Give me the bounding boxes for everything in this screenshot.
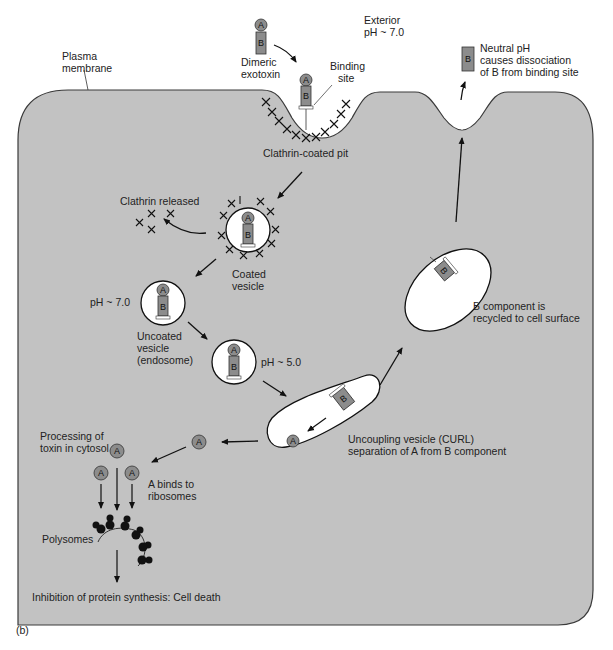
uncoated-vesicle: A B [141, 281, 185, 325]
svg-text:B: B [231, 362, 237, 372]
clathrin-released-label: Clathrin released [120, 195, 200, 207]
svg-text:A: A [160, 285, 166, 295]
released-b: B [462, 47, 474, 71]
svg-text:B: B [258, 38, 264, 48]
exotoxin-endocytosis-diagram: Plasma membrane A B Dimeric exotoxin Ext… [0, 0, 613, 650]
svg-text:B: B [465, 54, 471, 64]
svg-text:A: A [98, 468, 104, 478]
processing-label: Processing of toxin in cytosol [40, 430, 109, 454]
panel-label: (b) [16, 624, 29, 636]
polysomes-label: Polysomes [42, 533, 93, 545]
clathrin-coated-pit-label: Clathrin-coated pit [263, 147, 348, 159]
ph-5-label: pH ~ 5.0 [261, 356, 301, 368]
binding-site-label: Binding site [330, 60, 368, 84]
svg-text:A: A [258, 20, 264, 30]
dimeric-exotoxin: A B [255, 19, 267, 54]
neutral-ph-label: Neutral pH causes dissociation of B from… [480, 42, 579, 78]
svg-text:A: A [231, 345, 237, 355]
exterior-label: Exterior pH ~ 7.0 [364, 14, 404, 38]
ph-7-label: pH ~ 7.0 [90, 296, 130, 308]
coated-vesicle-label: Coated vesicle [232, 268, 269, 292]
svg-text:B: B [303, 91, 309, 101]
svg-text:A: A [114, 446, 120, 456]
svg-text:A: A [196, 437, 202, 447]
bound-toxin: A B [299, 74, 313, 130]
svg-text:B: B [245, 230, 251, 240]
empty-binding-site [454, 107, 470, 130]
svg-text:A: A [303, 75, 309, 85]
cell-body [18, 90, 593, 625]
inhibition-label: Inhibition of protein synthesis: Cell de… [32, 591, 221, 603]
a-binds-label: A binds to ribosomes [148, 478, 197, 502]
dimeric-exotoxin-label: Dimeric exotoxin [241, 56, 280, 80]
svg-text:A: A [290, 436, 296, 446]
svg-text:A: A [245, 213, 251, 223]
svg-text:B: B [160, 302, 166, 312]
acidic-endosome: A B [212, 340, 256, 384]
svg-text:A: A [129, 468, 135, 478]
plasma-membrane-label: Plasma membrane [62, 50, 112, 74]
free-a-subunit: A [192, 435, 206, 449]
